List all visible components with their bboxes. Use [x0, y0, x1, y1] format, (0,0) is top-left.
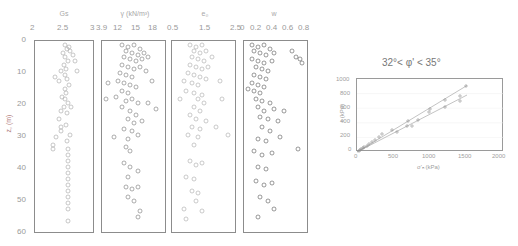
panel-e0-label: e₀	[195, 10, 215, 17]
shear-chart-title: 32°< φ' < 35°	[382, 57, 441, 68]
gs-scatter	[35, 41, 95, 234]
depth-tick: 40	[8, 163, 26, 172]
gs-tick: 3	[90, 23, 94, 32]
shear-plot-area	[356, 78, 503, 151]
gamma-tick: 15	[131, 23, 140, 32]
shear-x-tick: 500	[388, 153, 398, 159]
depth-tick: 60	[8, 227, 26, 236]
depth-tick: 10	[8, 67, 26, 76]
w-tick: 0.2	[250, 23, 261, 32]
panel-w-label: w	[264, 10, 284, 17]
depth-axis-label: z, (m)	[5, 115, 12, 133]
depth-tick: 30	[8, 131, 26, 140]
e0-tick: 0.5	[167, 23, 178, 32]
w-tick: 0.6	[282, 23, 293, 32]
w-tick: 0.4	[266, 23, 277, 32]
shear-x-tick: 2000	[492, 153, 505, 159]
shear-y-tick: 400	[340, 118, 350, 124]
gs-tick: 2	[30, 23, 34, 32]
panel-e0-plot	[171, 40, 236, 233]
shear-x-tick: 1500	[458, 153, 471, 159]
w-scatter	[244, 41, 309, 234]
shear-x-label: σ'ₙ (kPa)	[417, 163, 440, 170]
shear-scatter	[357, 79, 504, 152]
shear-y-tick: 200	[340, 132, 350, 138]
w-tick: 0	[240, 23, 244, 32]
shear-x-tick: 0	[354, 153, 357, 159]
gamma-tick: 12	[113, 23, 122, 32]
depth-tick: 0	[8, 35, 26, 44]
shear-x-tick: 1000	[422, 153, 435, 159]
depth-tick: 20	[8, 99, 26, 108]
shear-y-tick: 1000	[336, 76, 349, 82]
gamma-tick: 3.9	[96, 23, 107, 32]
gamma-tick: 18	[148, 23, 157, 32]
gs-tick: 2.5	[57, 23, 68, 32]
shear-y-tick: 600	[340, 104, 350, 110]
shear-y-tick: 800	[340, 90, 350, 96]
panel-gs-label: Gs	[54, 10, 74, 17]
e0-scatter	[172, 41, 237, 234]
e0-tick: 1.5	[199, 23, 210, 32]
w-tick: 0.8	[298, 23, 309, 32]
panel-gs-plot	[34, 40, 94, 233]
shear-y-tick: 0	[348, 146, 351, 152]
panel-gamma-plot	[101, 40, 166, 233]
panel-w-plot	[243, 40, 308, 233]
gamma-scatter	[102, 41, 167, 234]
panel-gamma-label: γ (kN/m³)	[115, 10, 155, 17]
depth-tick: 50	[8, 195, 26, 204]
